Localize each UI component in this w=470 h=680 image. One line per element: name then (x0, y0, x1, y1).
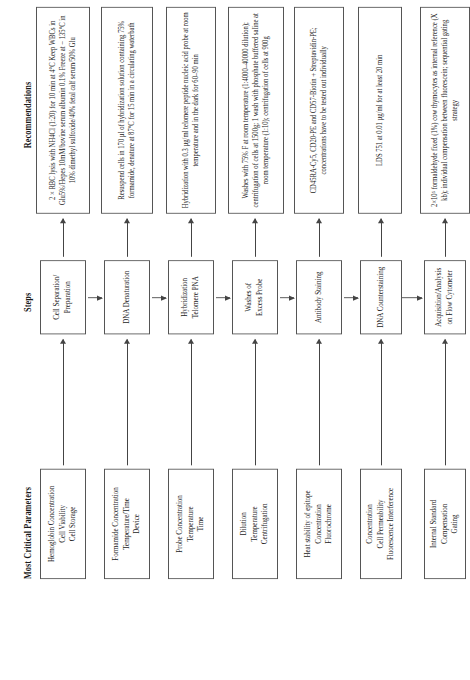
step-sequence-arrow (344, 297, 358, 298)
parameters-text: Formamide ConcentrationTemperature/TimeD… (111, 472, 143, 575)
recommendation-box: Washes with 75% F at room temperature (1… (228, 7, 284, 214)
recommendation-box: CD45RA-Cy5, CD20-PE and CD57-Biotin + St… (294, 7, 344, 214)
parameters-box: Probe ConcentrationTemperatureTime (168, 469, 214, 579)
step-text: DNA Denaturation (122, 264, 133, 331)
parameter-to-step-arrow (255, 340, 256, 466)
parameters-text: Heat stability of epitopeConcentrationFl… (303, 472, 335, 575)
step-box: Antibody Staining (296, 260, 342, 334)
parameters-text: Hemoglobin ConcentrationCell ViabilityCe… (47, 472, 79, 575)
recommendation-box: Resuspend cells in 170 µl of hybridizati… (101, 7, 153, 214)
parameters-box: ConcentrationCell PermeabilityFluorescen… (360, 469, 402, 579)
parameters-box: Internal StandardCompensationGating (424, 469, 466, 579)
parameters-text: DilutionTemperatureCentrifugation (239, 472, 271, 575)
recommendation-box: 2×10⁵ formaldehyde fixed (1%) cow thymoc… (420, 7, 470, 214)
step-to-recommendation-arrow (319, 219, 320, 257)
step-sequence-arrow (402, 297, 422, 298)
parameter-to-step-arrow (191, 340, 192, 466)
step-to-recommendation-arrow (445, 219, 446, 257)
step-sequence-arrow (152, 297, 166, 298)
step-text: Cell Separation/Preparation (52, 264, 73, 331)
recommendation-text: Hybridization with 0.3 µg/ml telomere pe… (181, 10, 201, 210)
step-box: DNA Denaturation (104, 260, 150, 334)
step-box: DNA Counterstaining (360, 260, 402, 334)
parameter-to-step-arrow (445, 340, 446, 466)
parameters-text: Probe ConcentrationTemperatureTime (175, 472, 207, 575)
parameters-box: DilutionTemperatureCentrifugation (232, 469, 278, 579)
column-header-recommendations: Recommendations (22, 82, 33, 149)
parameters-box: Heat stability of epitopeConcentrationFl… (296, 469, 342, 579)
recommendation-text: 2 × RBC lysis with NH4Cl (1:20) for 10 m… (48, 10, 78, 210)
step-to-recommendation-arrow (63, 219, 64, 257)
recommendation-text: CD45RA-Cy5, CD20-PE and CD57-Biotin + St… (309, 10, 329, 210)
parameters-box: Formamide ConcentrationTemperature/TimeD… (104, 469, 150, 579)
recommendation-box: 2 × RBC lysis with NH4Cl (1:20) for 10 m… (36, 7, 90, 214)
recommendation-text: Resuspend cells in 170 µl of hybridizati… (117, 10, 137, 210)
step-sequence-arrow (216, 297, 230, 298)
step-box: Cell Separation/Preparation (40, 260, 86, 334)
parameter-to-step-arrow (63, 340, 64, 466)
parameter-to-step-arrow (381, 340, 382, 466)
parameter-to-step-arrow (319, 340, 320, 466)
step-box: Washes ofExcess Probe (232, 260, 278, 334)
recommendation-text: Washes with 75% F at room temperature (1… (241, 10, 271, 210)
step-to-recommendation-arrow (191, 219, 192, 257)
recommendation-box: LDS 751 at 0.01 µg/ml for at least 20 mi… (358, 7, 402, 214)
step-text: Washes ofExcess Probe (244, 264, 265, 331)
flowchart-figure: Most Critical Parameters Steps Recommend… (0, 0, 470, 586)
step-sequence-arrow (88, 297, 102, 298)
rotated-figure-canvas: Most Critical Parameters Steps Recommend… (0, 0, 470, 586)
step-text: Antibody Staining (314, 264, 325, 331)
step-box: Acquisition/Analysison Flow Cytometer (424, 260, 466, 334)
column-header-steps: Steps (22, 293, 33, 312)
parameters-text: Internal StandardCompensationGating (429, 472, 461, 575)
step-text: DNA Counterstaining (376, 264, 387, 331)
recommendation-box: Hybridization with 0.3 µg/ml telomere pe… (166, 7, 216, 214)
step-text: Acquisition/Analysison Flow Cytometer (434, 264, 455, 331)
recommendation-text: LDS 751 at 0.01 µg/ml for at least 20 mi… (375, 10, 385, 210)
step-sequence-arrow (280, 297, 294, 298)
step-to-recommendation-arrow (381, 219, 382, 257)
parameters-text: ConcentrationCell PermeabilityFluorescen… (365, 472, 397, 575)
recommendation-text: 2×10⁵ formaldehyde fixed (1%) cow thymoc… (430, 10, 460, 210)
step-text: HybridizationTelomere PNA (180, 264, 201, 331)
step-to-recommendation-arrow (255, 219, 256, 257)
step-to-recommendation-arrow (127, 219, 128, 257)
step-box: HybridizationTelomere PNA (168, 260, 214, 334)
column-header-most-critical-parameters: Most Critical Parameters (22, 487, 33, 579)
parameters-box: Hemoglobin ConcentrationCell ViabilityCe… (40, 469, 86, 579)
parameter-to-step-arrow (127, 340, 128, 466)
